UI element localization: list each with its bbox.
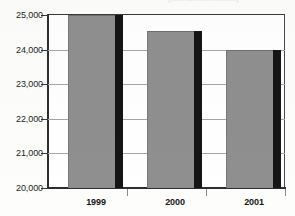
bar-body [147, 31, 194, 188]
bar-body [68, 15, 115, 188]
x-axis-tick-mark [206, 189, 207, 196]
bar [68, 15, 123, 188]
y-axis-tick-label: 20,000 [0, 183, 43, 193]
clipped-caption-text: (........................) [168, 0, 293, 3]
y-axis-tick-label: 24,000 [0, 45, 43, 55]
bar [226, 50, 281, 188]
bar-shadow [115, 15, 123, 188]
x-axis-tick-label: 2000 [145, 197, 205, 207]
y-axis-tick-label: 22,000 [0, 114, 43, 124]
y-axis-tick-label: 25,000 [0, 10, 43, 20]
bar-chart: (........................) 20,00021,0002… [0, 0, 295, 216]
y-axis-tick-label: 23,000 [0, 79, 43, 89]
y-axis-line [47, 14, 49, 189]
bar-shadow [273, 50, 281, 188]
y-axis-tick-label: 21,000 [0, 148, 43, 158]
bar-shadow [194, 31, 202, 188]
x-axis-tick-mark [285, 189, 286, 196]
bar-body [226, 50, 273, 188]
x-axis-tick-label: 1999 [66, 197, 126, 207]
x-axis-tick-mark [127, 189, 128, 196]
x-axis-tick-label: 2001 [224, 197, 284, 207]
bar [147, 31, 202, 188]
